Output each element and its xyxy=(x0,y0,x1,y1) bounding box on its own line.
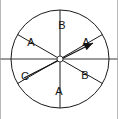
sector-divider xyxy=(18,35,60,60)
sector-label-2: B xyxy=(81,69,88,81)
sector-label-3: A xyxy=(55,85,63,97)
sector-divider xyxy=(60,35,102,60)
sector-labels: BABACA xyxy=(21,19,90,97)
sector-label-5: A xyxy=(27,36,35,48)
spinner-diagram: BABACA xyxy=(0,0,118,119)
sector-label-0: B xyxy=(58,19,65,31)
spinner-center-hub xyxy=(57,56,63,62)
spinner-figure: BABACA xyxy=(0,0,118,119)
spinner-needle-arrowhead xyxy=(83,43,93,50)
